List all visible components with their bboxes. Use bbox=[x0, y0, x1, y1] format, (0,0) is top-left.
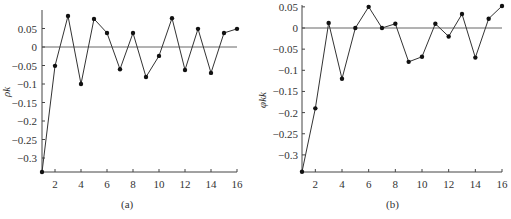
y-tick-label: −0.1 bbox=[278, 64, 298, 76]
x-tick-label: 2 bbox=[52, 178, 58, 190]
caption-a: (a) bbox=[121, 198, 133, 210]
data-point bbox=[300, 170, 304, 174]
x-tick-label: 6 bbox=[366, 178, 372, 190]
data-point bbox=[326, 21, 330, 25]
x-tick-label: 4 bbox=[78, 178, 84, 190]
chart-panel-a: 0.050−0.05−0.1−0.15−0.2−0.25−0.324681012… bbox=[0, 0, 255, 219]
y-axis-label: ρk bbox=[0, 86, 12, 98]
data-point bbox=[446, 34, 450, 38]
y-tick-label: 0 bbox=[293, 22, 299, 34]
data-point bbox=[79, 82, 83, 86]
y-tick-label: −0.05 bbox=[273, 43, 299, 55]
x-tick-label: 16 bbox=[232, 178, 244, 190]
y-tick-label: −0.2 bbox=[17, 115, 37, 127]
data-point bbox=[340, 77, 344, 81]
acf-plot: 0.050−0.05−0.1−0.15−0.2−0.25−0.324681012… bbox=[0, 0, 255, 219]
y-tick-label: −0.15 bbox=[12, 97, 38, 109]
x-tick-label: 8 bbox=[393, 178, 399, 190]
data-point bbox=[222, 31, 226, 35]
data-point bbox=[40, 170, 44, 174]
y-axis-label: φkk bbox=[256, 91, 268, 108]
data-point bbox=[131, 31, 135, 35]
x-tick-label: 10 bbox=[417, 178, 429, 190]
data-point bbox=[157, 54, 161, 58]
y-tick-label: 0 bbox=[32, 41, 38, 53]
y-tick-label: −0.25 bbox=[273, 128, 299, 140]
x-tick-label: 10 bbox=[154, 178, 166, 190]
y-tick-label: −0.05 bbox=[12, 60, 38, 72]
x-tick-label: 2 bbox=[313, 178, 319, 190]
data-point bbox=[393, 22, 397, 26]
x-tick-label: 4 bbox=[339, 178, 345, 190]
y-tick-label: −0.3 bbox=[17, 152, 37, 164]
data-point bbox=[380, 26, 384, 30]
data-point bbox=[406, 60, 410, 64]
data-point bbox=[420, 55, 424, 59]
data-point bbox=[313, 106, 317, 110]
data-point bbox=[105, 31, 109, 35]
data-point bbox=[433, 22, 437, 26]
chart-panel-b: 0.050−0.05−0.1−0.15−0.2−0.25−0.324681012… bbox=[256, 0, 511, 219]
y-tick-label: −0.1 bbox=[17, 78, 37, 90]
x-tick-label: 16 bbox=[497, 178, 509, 190]
x-tick-label: 14 bbox=[470, 178, 482, 190]
y-tick-label: 0.05 bbox=[18, 23, 38, 35]
data-point bbox=[66, 14, 70, 18]
data-point bbox=[209, 71, 213, 75]
data-point bbox=[353, 26, 357, 30]
data-point bbox=[235, 27, 239, 31]
data-point bbox=[500, 4, 504, 8]
x-tick-label: 8 bbox=[130, 178, 136, 190]
data-point bbox=[460, 12, 464, 16]
x-tick-label: 6 bbox=[104, 178, 110, 190]
x-tick-label: 12 bbox=[443, 178, 454, 190]
y-tick-label: −0.15 bbox=[273, 85, 299, 97]
data-point bbox=[170, 16, 174, 20]
data-point bbox=[196, 27, 200, 31]
pacf-plot: 0.050−0.05−0.1−0.15−0.2−0.25−0.324681012… bbox=[256, 0, 511, 219]
y-tick-label: −0.2 bbox=[278, 107, 298, 119]
y-tick-label: −0.3 bbox=[278, 149, 298, 161]
x-tick-label: 14 bbox=[206, 178, 218, 190]
data-point bbox=[183, 68, 187, 72]
data-line bbox=[302, 6, 502, 172]
y-tick-label: −0.25 bbox=[12, 134, 38, 146]
caption-b: (b) bbox=[386, 198, 399, 210]
x-tick-label: 12 bbox=[180, 178, 191, 190]
data-point bbox=[486, 16, 490, 20]
data-point bbox=[366, 5, 370, 9]
data-point bbox=[92, 17, 96, 21]
data-point bbox=[144, 75, 148, 79]
data-line bbox=[42, 16, 237, 172]
data-point bbox=[53, 64, 57, 68]
data-point bbox=[473, 55, 477, 59]
y-tick-label: 0.05 bbox=[279, 1, 299, 13]
data-point bbox=[118, 67, 122, 71]
